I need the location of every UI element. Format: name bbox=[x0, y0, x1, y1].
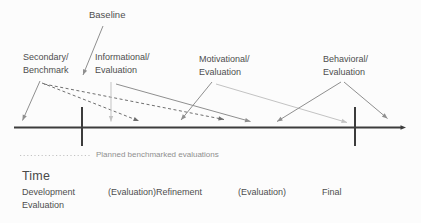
baseline-label: Baseline bbox=[89, 9, 125, 20]
evaluation-timeline-diagram: Baseline Secondary/ Benchmark Informatio… bbox=[0, 0, 421, 223]
final-stage-label: Final bbox=[322, 186, 342, 199]
motivational-right-pointer-head bbox=[341, 119, 347, 123]
evaluation-refinement-label: (Evaluation)Refinement bbox=[108, 186, 202, 199]
behavioral-left-pointer-head bbox=[277, 117, 283, 122]
time-axis-label: Time bbox=[22, 169, 50, 183]
planned-dashed-arrow-1-head bbox=[133, 117, 139, 121]
secondary-benchmark-label: Secondary/ Benchmark bbox=[23, 51, 69, 76]
motivational-evaluation-label-line1: Motivational/ bbox=[199, 53, 250, 66]
planned-dashed-arrow-1 bbox=[42, 83, 139, 121]
development-evaluation-label-line2: Evaluation bbox=[22, 199, 75, 212]
motivational-evaluation-label: Motivational/ Evaluation bbox=[199, 53, 250, 78]
behavioral-evaluation-label-line1: Behavioral/ bbox=[323, 53, 368, 66]
behavioral-evaluation-label-line2: Evaluation bbox=[323, 66, 368, 79]
behavioral-right-pointer bbox=[344, 82, 388, 119]
motivational-evaluation-label-line2: Evaluation bbox=[199, 66, 250, 79]
legend-planned-benchmarked-label: Planned benchmarked evaluations bbox=[96, 150, 219, 159]
secondary-benchmark-label-line2: Benchmark bbox=[23, 64, 69, 77]
baseline-pointer-head bbox=[83, 69, 87, 75]
informational-vertical-pointer-head bbox=[109, 116, 113, 122]
time-axis-arrowhead bbox=[401, 125, 407, 129]
planned-dashed-arrow-2-head bbox=[218, 116, 224, 120]
evaluation-stage-label: (Evaluation) bbox=[238, 186, 286, 199]
informational-diagonal-pointer-head bbox=[245, 118, 251, 122]
secondary-pointer-head bbox=[23, 115, 27, 121]
informational-evaluation-label: Informational/ Evaluation bbox=[95, 51, 150, 76]
behavioral-left-pointer bbox=[277, 82, 341, 122]
development-evaluation-label: Development Evaluation bbox=[22, 186, 75, 212]
motivational-right-pointer bbox=[216, 84, 347, 123]
informational-evaluation-label-line2: Evaluation bbox=[95, 64, 150, 77]
secondary-benchmark-label-line1: Secondary/ bbox=[23, 51, 69, 64]
development-evaluation-label-line1: Development bbox=[22, 186, 75, 199]
behavioral-evaluation-label: Behavioral/ Evaluation bbox=[323, 53, 368, 78]
secondary-pointer bbox=[23, 81, 41, 121]
informational-evaluation-label-line1: Informational/ bbox=[95, 51, 150, 64]
